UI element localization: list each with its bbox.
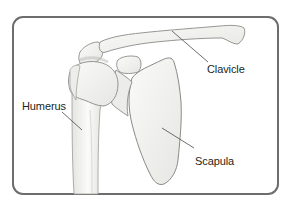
label-humerus: Humerus: [22, 100, 66, 113]
label-clavicle: Clavicle: [207, 63, 245, 76]
coracoid-process: [117, 56, 141, 74]
label-scapula: Scapula: [195, 155, 234, 168]
shoulder-diagram: Clavicle Humerus Scapula: [0, 0, 293, 204]
